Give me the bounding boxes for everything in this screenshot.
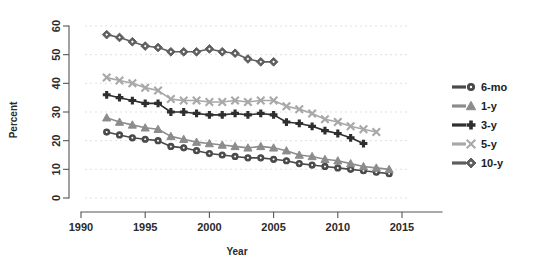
data-point-circle (350, 168, 352, 170)
x-tick-label: 2015 (390, 221, 414, 233)
y-tick-label: 60 (50, 20, 62, 32)
x-axis-title: Year (226, 246, 247, 257)
line-chart-figure: 0102030405060199019952000200520102015 6-… (0, 0, 544, 270)
legend-group: 6-mo1-y3-y5-y10-y (452, 81, 508, 169)
x-tick-label: 2000 (197, 221, 221, 233)
data-point-circle (183, 147, 185, 149)
legend-item-6-mo[interactable]: 6-mo (452, 81, 508, 93)
data-point-circle (311, 164, 313, 166)
data-point-circle (106, 131, 108, 133)
data-point-plus (334, 130, 342, 138)
data-point-plus (257, 110, 265, 118)
data-point-plus (321, 127, 329, 135)
legend-item-1-y[interactable]: 1-y (452, 100, 498, 112)
data-point-plus (295, 120, 303, 128)
data-point-circle (221, 154, 223, 156)
data-point-circle (298, 163, 300, 165)
data-point-plus (347, 134, 355, 142)
data-point-circle (247, 157, 249, 159)
data-point-triangle (466, 101, 475, 109)
data-point-circle (285, 160, 287, 162)
data-series-group (102, 30, 393, 176)
data-point-circle (324, 165, 326, 167)
data-point-triangle (167, 132, 175, 139)
data-point-plus (218, 111, 226, 119)
x-tick-label: 1990 (69, 221, 93, 233)
data-point-circle (157, 140, 159, 142)
data-point-plus (193, 110, 201, 118)
legend-label: 5-y (481, 138, 498, 150)
data-point-plus (103, 91, 111, 99)
x-tick-label: 2005 (261, 221, 285, 233)
data-point-triangle (103, 114, 111, 121)
data-point-plus (128, 97, 136, 105)
data-point-circle (208, 153, 210, 155)
legend-item-3-y[interactable]: 3-y (452, 119, 498, 131)
legend-item-5-y[interactable]: 5-y (452, 138, 498, 150)
data-point-plus (283, 118, 291, 126)
data-point-plus (231, 110, 239, 118)
data-point-plus (141, 100, 149, 108)
y-tick-label: 50 (50, 49, 62, 61)
legend-label: 1-y (481, 100, 498, 112)
data-point-circle (234, 155, 236, 157)
y-tick-label: 0 (50, 195, 62, 201)
legend-item-10-y[interactable]: 10-y (452, 157, 504, 169)
series-10-y (102, 30, 278, 66)
data-point-plus (116, 94, 124, 102)
data-point-plus (180, 108, 188, 116)
chart-svg: 0102030405060199019952000200520102015 6-… (0, 0, 544, 270)
data-point-circle (337, 167, 339, 169)
data-point-circle (260, 157, 262, 159)
y-tick-label: 10 (50, 163, 62, 175)
data-point-plus (308, 122, 316, 130)
x-tick-label: 2010 (326, 221, 350, 233)
data-point-circle (119, 134, 121, 136)
y-tick-label: 20 (50, 135, 62, 147)
y-axis-title: Percent (8, 101, 19, 138)
y-tick-label: 30 (50, 106, 62, 118)
series-1-y (103, 114, 394, 173)
legend-label: 10-y (481, 157, 504, 169)
chart-screenshot: 0102030405060199019952000200520102015 6-… (0, 0, 544, 270)
data-point-circle (273, 158, 275, 160)
data-point-circle (170, 145, 172, 147)
data-point-plus (467, 121, 476, 130)
legend-label: 3-y (481, 119, 498, 131)
data-point-circle (470, 86, 472, 88)
x-tick-label: 1995 (133, 221, 157, 233)
data-point-circle (131, 137, 133, 139)
legend-label: 6-mo (481, 81, 508, 93)
data-point-circle (144, 138, 146, 140)
y-tick-label: 40 (50, 77, 62, 89)
data-point-circle (196, 150, 198, 152)
